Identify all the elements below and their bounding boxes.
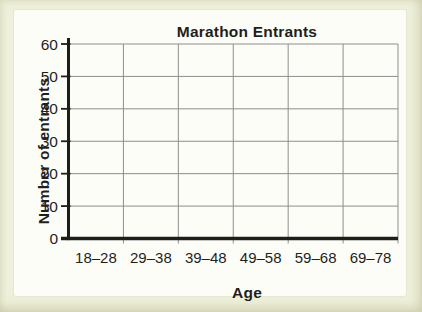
- y-tick-label: 20: [41, 165, 59, 182]
- y-tick-label: 30: [41, 133, 59, 150]
- chart-plot-area: 010203040506018–2829–3839–4849–5859–6869…: [0, 0, 422, 312]
- x-category-label: 39–48: [185, 249, 227, 266]
- y-tick-label: 40: [41, 100, 59, 117]
- y-tick-label: 0: [49, 230, 58, 247]
- y-tick-label: 60: [41, 36, 59, 53]
- y-tick-label: 10: [41, 198, 59, 215]
- x-category-label: 69–78: [350, 249, 392, 266]
- x-category-label: 18–28: [75, 249, 117, 266]
- x-category-label: 49–58: [240, 249, 282, 266]
- x-category-label: 29–38: [130, 249, 172, 266]
- y-tick-label: 50: [41, 68, 59, 85]
- x-category-label: 59–68: [295, 249, 337, 266]
- scan-background: Marathon Entrants Number of entrants Age…: [0, 0, 422, 312]
